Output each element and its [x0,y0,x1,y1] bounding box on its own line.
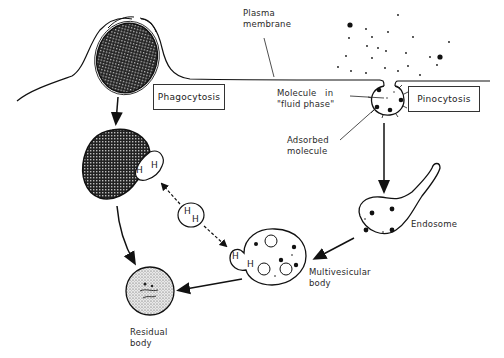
label-adsorbed-molecule: Adsorbed molecule [287,135,329,156]
extracellular-molecules [337,14,450,76]
residual-body [126,267,174,315]
multivesicular-body [230,229,306,285]
hydrolase-mark: H [247,259,254,269]
label-pinocytosis: Pinocytosis [408,86,480,112]
primary-lysosome [178,203,204,227]
label-molecule-fluid-phase: Molecule in "fluid phase" [277,88,334,109]
pinocytic-pit [340,85,408,140]
label-multivesicular-body: Multivesicular body [309,267,371,288]
label-residual-body: Residual body [130,327,168,348]
hydrolase-mark: H [151,160,158,170]
dashed-arrow-to-mvb [204,226,226,246]
label-phagocytosis: Phagocytosis [153,84,225,110]
label-plasma-membrane: Plasma membrane [243,8,291,29]
label-endosome: Endosome [411,219,457,230]
arrow-endosome-to-mvb [316,238,354,258]
hydrolase-mark: H [184,206,191,216]
arrow-particle-to-phagosome [116,97,118,122]
hydrolase-mark: H [232,251,239,261]
arrow-phagosome-to-residual [117,206,134,262]
hydrolase-mark: H [136,165,143,175]
hydrolase-mark: H [192,214,199,224]
arrow-mvb-to-residual [180,279,242,290]
dashed-arrow-to-phagosome [162,184,180,204]
endocytosis-diagram [0,0,504,358]
